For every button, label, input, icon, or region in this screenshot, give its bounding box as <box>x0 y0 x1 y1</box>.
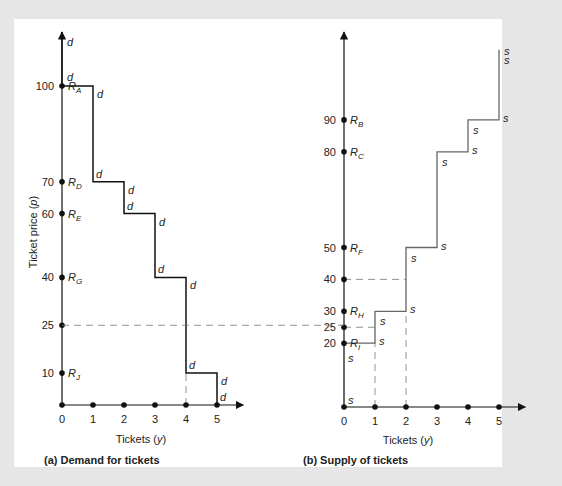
x-tick-label: 4 <box>465 415 471 427</box>
caption-a: (a) Demand for tickets <box>44 454 160 466</box>
reservation-price-label: RI <box>350 337 361 352</box>
x-tick-label: 5 <box>496 415 502 427</box>
curve-label: d <box>67 36 74 48</box>
x-tick-dot <box>465 404 471 410</box>
y-tick-label: 25 <box>324 321 336 333</box>
y-tick-label: 40 <box>42 271 54 283</box>
x-tick-dot <box>183 402 189 408</box>
x-tick-label: 1 <box>90 413 96 425</box>
y-tick-dot <box>341 149 347 155</box>
y-tick-label: 40 <box>324 273 336 285</box>
x-tick-dot <box>372 404 378 410</box>
y-tick-dot <box>59 179 65 185</box>
x-tick-dot <box>403 404 409 410</box>
curve-label: s <box>411 252 417 264</box>
curve-label: s <box>442 156 448 168</box>
y-tick-label: 25 <box>42 319 54 331</box>
x-tick-dot <box>434 404 440 410</box>
x-axis-title-b: Tickets (y) <box>383 434 433 446</box>
x-tick-label: 3 <box>152 413 158 425</box>
y-tick-dot <box>341 117 347 123</box>
supply-chart: 01234590805040302520RBRCRFRHRIssssssssss… <box>324 32 526 427</box>
curve-label: d <box>159 216 166 228</box>
curve-label: d <box>158 263 165 275</box>
x-tick-label: 4 <box>183 413 189 425</box>
x-axis-title-a: Tickets (y) <box>116 433 166 445</box>
y-tick-dot <box>341 340 347 346</box>
y-axis-title: Ticket price (p) <box>27 196 39 268</box>
reservation-price-label: RC <box>350 146 364 161</box>
y-tick-dot <box>59 275 65 281</box>
x-tick-dot <box>59 402 65 408</box>
curve-label: d <box>97 88 104 100</box>
curve-label: s <box>380 315 386 327</box>
curve-label: s <box>348 352 354 364</box>
reservation-price-label: RE <box>68 208 82 223</box>
y-tick-label: 100 <box>36 80 54 92</box>
demand-chart: 0123451007060402510RARDRERGRJddddddddddd… <box>36 32 244 425</box>
x-tick-dot <box>341 404 347 410</box>
curve-label: d <box>127 200 134 212</box>
curve-label: s <box>473 124 479 136</box>
y-tick-dot <box>341 309 347 315</box>
x-tick-label: 2 <box>121 413 127 425</box>
x-tick-label: 5 <box>214 413 220 425</box>
curve-label: d <box>221 375 228 387</box>
x-tick-label: 1 <box>372 415 378 427</box>
curve-label: s <box>441 240 447 252</box>
y-tick-dot <box>59 370 65 376</box>
x-tick-dot <box>496 404 502 410</box>
figure: 0123451007060402510RARDRERGRJddddddddddd… <box>0 0 562 486</box>
y-tick-label: 90 <box>324 114 336 126</box>
curve-label: s <box>504 45 510 57</box>
x-tick-label: 3 <box>434 415 440 427</box>
curve-label: d <box>220 391 227 403</box>
reservation-price-label: RH <box>350 305 364 320</box>
x-tick-dot <box>90 402 96 408</box>
curve-label: s <box>472 144 478 156</box>
curve-label: s <box>348 394 354 406</box>
x-tick-label: 0 <box>341 415 347 427</box>
reservation-price-label: RB <box>350 114 364 129</box>
y-tick-dot <box>59 211 65 217</box>
reservation-price-label: RD <box>68 176 82 191</box>
x-tick-dot <box>121 402 127 408</box>
demand-curve <box>62 32 217 405</box>
caption-b: (b) Supply of tickets <box>303 454 408 466</box>
y-tick-label: 80 <box>324 146 336 158</box>
curve-label: d <box>190 279 197 291</box>
x-tick-dot <box>152 402 158 408</box>
curve-label: d <box>67 71 74 83</box>
curve-label: s <box>503 112 509 124</box>
x-tick-dot <box>214 402 220 408</box>
reservation-price-label: RG <box>68 271 82 286</box>
y-tick-label: 30 <box>324 305 336 317</box>
curve-label: d <box>96 168 103 180</box>
x-tick-label: 0 <box>59 413 65 425</box>
curve-label: s <box>379 335 385 347</box>
curve-label: d <box>128 184 135 196</box>
y-tick-dot <box>59 83 65 89</box>
curve-label: d <box>189 359 196 371</box>
y-tick-label: 10 <box>42 367 54 379</box>
y-tick-dot <box>341 245 347 251</box>
x-tick-label: 2 <box>403 415 409 427</box>
y-tick-label: 20 <box>324 337 336 349</box>
y-tick-dot <box>341 277 347 283</box>
y-tick-label: 60 <box>42 208 54 220</box>
y-tick-label: 50 <box>324 242 336 254</box>
y-tick-label: 70 <box>42 176 54 188</box>
curve-label: s <box>410 303 416 315</box>
reservation-price-label: RF <box>350 242 364 257</box>
supply-curve <box>344 50 499 407</box>
reservation-price-label: RJ <box>68 367 81 382</box>
